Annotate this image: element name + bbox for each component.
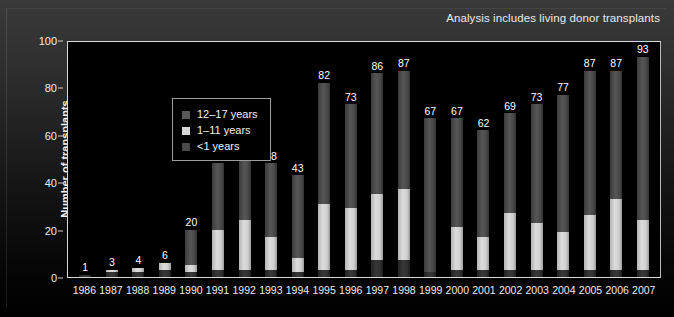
bar-segment-1-11: [159, 263, 171, 270]
bar-segment-12-17: [398, 71, 410, 190]
bar-slot: 82: [311, 42, 338, 277]
legend-swatch-1-11-icon: [182, 127, 190, 135]
bar-segment-1-11: [451, 227, 463, 270]
bar-slot: 87: [576, 42, 603, 277]
x-axis: 1986198719881989199019911992199319941995…: [67, 284, 661, 296]
bar-segment-12-17: [371, 73, 383, 194]
bar-segment-1-11: [371, 194, 383, 260]
stacked-bar[interactable]: 86: [371, 73, 383, 277]
bar-segment-under-1: [451, 270, 463, 277]
y-axis-tick-label: 80: [45, 82, 57, 94]
y-axis-tick-label: 0: [51, 272, 57, 284]
bar-value-label: 86: [371, 61, 383, 72]
bar-segment-1-11: [212, 230, 224, 270]
bar-segment-under-1: [584, 270, 596, 277]
bar-slot: 93: [629, 42, 656, 277]
plot-area: 1346204851484382738687676762697377878793…: [67, 41, 661, 278]
bar-segment-1-11: [477, 237, 489, 270]
x-axis-tick-label: 2004: [551, 284, 578, 296]
bar-segment-under-1: [345, 270, 357, 277]
legend-swatch-under-1-icon: [182, 143, 190, 151]
stacked-bar[interactable]: 62: [477, 130, 489, 277]
bar-segment-under-1: [557, 270, 569, 277]
bar-segment-under-1: [185, 272, 197, 277]
y-axis-tick-mark: [58, 183, 63, 184]
x-axis-tick-label: 1997: [364, 284, 391, 296]
x-axis-tick-label: 1993: [257, 284, 284, 296]
bar-slot: 87: [391, 42, 418, 277]
stacked-bar[interactable]: 73: [531, 104, 543, 277]
x-axis-tick-label: 1998: [391, 284, 418, 296]
stacked-bar[interactable]: 93: [637, 57, 649, 277]
bar-segment-under-1: [318, 270, 330, 277]
stacked-bar[interactable]: 82: [318, 83, 330, 277]
bar-slot: 86: [364, 42, 391, 277]
stacked-bar[interactable]: 43: [292, 175, 304, 277]
legend-label-12-17: 12–17 years: [197, 109, 258, 120]
legend-item: <1 years: [182, 141, 258, 152]
bar-segment-under-1: [477, 270, 489, 277]
stacked-bar[interactable]: 73: [345, 104, 357, 277]
stacked-bar[interactable]: 6: [159, 263, 171, 277]
y-axis-tick-mark: [58, 41, 63, 42]
y-axis-tick-mark: [58, 88, 63, 89]
bar-value-label: 67: [425, 106, 437, 117]
bar-segment-12-17: [318, 83, 330, 204]
stacked-bar[interactable]: 87: [610, 71, 622, 277]
bar-slot: 73: [337, 42, 364, 277]
bar-value-label: 20: [186, 217, 198, 228]
bar-slot: 43: [284, 42, 311, 277]
bar-slot: 69: [497, 42, 524, 277]
stacked-bar[interactable]: 20: [185, 230, 197, 277]
y-axis-tick-mark: [58, 135, 63, 136]
stacked-bar[interactable]: 4: [132, 268, 144, 277]
stacked-bar[interactable]: 3: [106, 270, 118, 277]
stacked-bar[interactable]: 67: [451, 118, 463, 277]
bar-value-label: 4: [135, 255, 141, 266]
bar-segment-1-11: [557, 232, 569, 270]
bar-segment-12-17: [185, 230, 197, 266]
x-axis-tick-label: 2006: [604, 284, 631, 296]
bar-segment-12-17: [424, 118, 436, 272]
bar-segment-12-17: [610, 71, 622, 199]
bar-slot: 62: [470, 42, 497, 277]
bar-segment-under-1: [106, 272, 118, 277]
chart-figure: Analysis includes living donor transplan…: [0, 0, 674, 317]
stacked-bar[interactable]: 48: [265, 163, 277, 277]
bar-segment-12-17: [557, 95, 569, 232]
x-axis-tick-label: 2002: [497, 284, 524, 296]
bar-segment-under-1: [371, 260, 383, 277]
stacked-bar[interactable]: 1: [79, 275, 91, 277]
bar-slot: 67: [444, 42, 471, 277]
bar-segment-under-1: [265, 270, 277, 277]
bar-value-label: 62: [478, 118, 490, 129]
bar-slot: 73: [523, 42, 550, 277]
bar-value-label: 82: [318, 70, 330, 81]
bar-segment-1-11: [265, 237, 277, 270]
bar-segment-12-17: [292, 175, 304, 258]
bar-value-label: 43: [292, 163, 304, 174]
bar-segment-1-11: [345, 208, 357, 270]
x-axis-tick-label: 2005: [577, 284, 604, 296]
stacked-bar[interactable]: 69: [504, 113, 516, 277]
stacked-bar[interactable]: 67: [424, 118, 436, 277]
stacked-bar[interactable]: 87: [584, 71, 596, 277]
legend-swatch-12-17-icon: [182, 111, 190, 119]
stacked-bar[interactable]: 48: [212, 163, 224, 277]
bar-segment-12-17: [265, 163, 277, 236]
bar-segment-under-1: [531, 270, 543, 277]
bar-slot: 3: [99, 42, 126, 277]
bar-slot: 4: [125, 42, 152, 277]
y-axis-tick-label: 40: [45, 177, 57, 189]
stacked-bar[interactable]: 77: [557, 95, 569, 277]
x-axis-tick-label: 2007: [630, 284, 657, 296]
stacked-bar[interactable]: 87: [398, 71, 410, 277]
bar-value-label: 87: [610, 58, 622, 69]
bar-segment-12-17: [212, 163, 224, 229]
x-axis-tick-label: 1988: [124, 284, 151, 296]
x-axis-tick-label: 1995: [311, 284, 338, 296]
bar-segment-1-11: [584, 215, 596, 270]
bar-segment-under-1: [398, 260, 410, 277]
y-axis-tick-label: 20: [45, 225, 57, 237]
stacked-bar[interactable]: 51: [239, 156, 251, 277]
